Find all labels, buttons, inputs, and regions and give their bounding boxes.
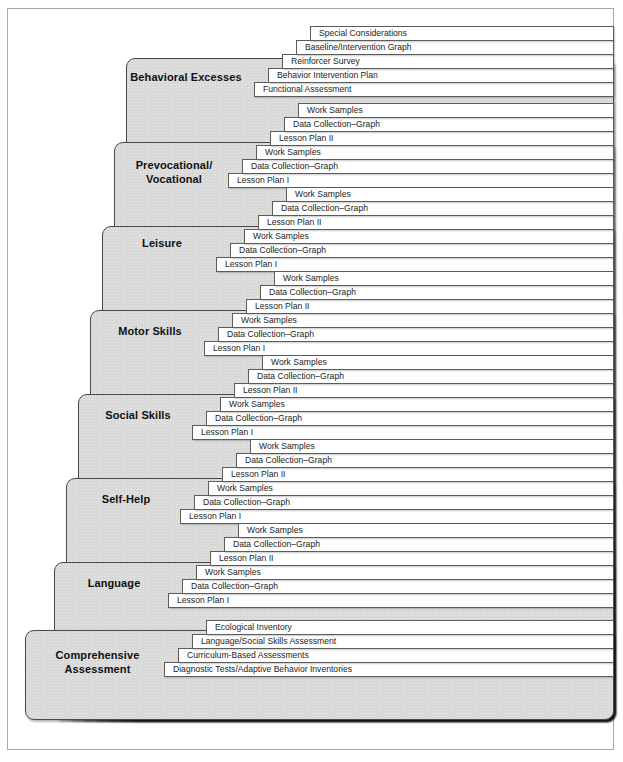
tab-behavioral-excesses-2[interactable]: Reinforcer Survey (282, 54, 614, 69)
tab-social-skills-2[interactable]: Lesson Plan II (234, 383, 614, 398)
step-label-social-skills: Social Skills (78, 409, 198, 423)
figure-frame: Behavioral ExcessesPrevocational/ Vocati… (7, 8, 614, 750)
tab-social-skills-0[interactable]: Work Samples (262, 355, 614, 370)
tab-behavioral-excesses-0[interactable]: Special Considerations (310, 26, 614, 41)
tab-prevocational-vocational-4[interactable]: Data Collection–Graph (242, 159, 614, 174)
tab-self-help-0[interactable]: Work Samples (250, 439, 614, 454)
tab-leisure-5[interactable]: Lesson Plan I (216, 257, 614, 272)
tab-social-skills-3[interactable]: Work Samples (220, 397, 614, 412)
tab-language-3[interactable]: Work Samples (196, 565, 614, 580)
tab-language-5[interactable]: Lesson Plan I (168, 593, 614, 608)
tab-comprehensive-assessment-0[interactable]: Ecological Inventory (206, 620, 614, 635)
tab-comprehensive-assessment-1[interactable]: Language/Social Skills Assessment (192, 634, 614, 649)
tab-motor-skills-4[interactable]: Data Collection–Graph (218, 327, 614, 342)
step-label-language: Language (54, 577, 174, 591)
tab-motor-skills-5[interactable]: Lesson Plan I (204, 341, 614, 356)
step-label-motor-skills: Motor Skills (90, 325, 210, 339)
tab-behavioral-excesses-4[interactable]: Functional Assessment (254, 82, 614, 97)
tab-behavioral-excesses-1[interactable]: Baseline/Intervention Graph (296, 40, 614, 55)
tab-self-help-5[interactable]: Lesson Plan I (180, 509, 614, 524)
tab-leisure-4[interactable]: Data Collection–Graph (230, 243, 614, 258)
tab-prevocational-vocational-2[interactable]: Lesson Plan II (270, 131, 614, 146)
tab-language-1[interactable]: Data Collection–Graph (224, 537, 614, 552)
tab-motor-skills-2[interactable]: Lesson Plan II (246, 299, 614, 314)
tab-language-4[interactable]: Data Collection–Graph (182, 579, 614, 594)
tab-self-help-4[interactable]: Data Collection–Graph (194, 495, 614, 510)
tab-prevocational-vocational-3[interactable]: Work Samples (256, 145, 614, 160)
tab-motor-skills-1[interactable]: Data Collection–Graph (260, 285, 614, 300)
tab-comprehensive-assessment-2[interactable]: Curriculum-Based Assessments (178, 648, 614, 663)
tab-motor-skills-3[interactable]: Work Samples (232, 313, 614, 328)
step-label-comprehensive-assessment: Comprehensive Assessment (25, 649, 170, 676)
tab-social-skills-1[interactable]: Data Collection–Graph (248, 369, 614, 384)
step-label-self-help: Self-Help (66, 493, 186, 507)
step-label-behavioral-excesses: Behavioral Excesses (126, 71, 246, 85)
tab-prevocational-vocational-1[interactable]: Data Collection–Graph (284, 117, 614, 132)
step-label-leisure: Leisure (102, 237, 222, 251)
tab-prevocational-vocational-5[interactable]: Lesson Plan I (228, 173, 614, 188)
tab-self-help-2[interactable]: Lesson Plan II (222, 467, 614, 482)
tab-leisure-0[interactable]: Work Samples (286, 187, 614, 202)
tab-behavioral-excesses-3[interactable]: Behavior Intervention Plan (268, 68, 614, 83)
tab-leisure-3[interactable]: Work Samples (244, 229, 614, 244)
tab-comprehensive-assessment-3[interactable]: Diagnostic Tests/Adaptive Behavior Inven… (164, 662, 614, 677)
tab-language-2[interactable]: Lesson Plan II (210, 551, 614, 566)
tab-self-help-1[interactable]: Data Collection–Graph (236, 453, 614, 468)
tab-leisure-2[interactable]: Lesson Plan II (258, 215, 614, 230)
step-label-prevocational-vocational: Prevocational/ Vocational (114, 159, 234, 186)
tab-language-0[interactable]: Work Samples (238, 523, 614, 538)
tab-leisure-1[interactable]: Data Collection–Graph (272, 201, 614, 216)
tab-prevocational-vocational-0[interactable]: Work Samples (298, 103, 614, 118)
tab-social-skills-5[interactable]: Lesson Plan I (192, 425, 614, 440)
tab-social-skills-4[interactable]: Data Collection–Graph (206, 411, 614, 426)
tab-self-help-3[interactable]: Work Samples (208, 481, 614, 496)
tab-motor-skills-0[interactable]: Work Samples (274, 271, 614, 286)
